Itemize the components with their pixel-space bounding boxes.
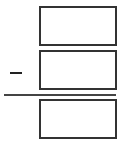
minuend-box[interactable] — [39, 6, 117, 46]
difference-box[interactable] — [39, 99, 117, 139]
minus-icon — [10, 72, 22, 74]
sum-line-divider — [4, 94, 116, 96]
subtrahend-box[interactable] — [39, 50, 117, 90]
